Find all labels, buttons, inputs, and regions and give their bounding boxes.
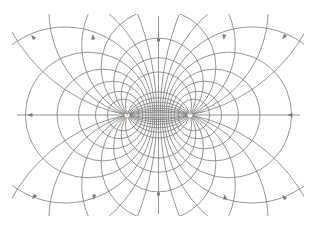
positive-charge-label: + — [124, 111, 130, 118]
arrow-icon — [31, 194, 38, 201]
field-line-circle — [0, 112, 316, 227]
arrow-icon — [281, 34, 288, 41]
arrow-icon — [281, 193, 288, 200]
arrow-icon — [91, 34, 95, 40]
dipole-field-diagram: + − — [0, 0, 316, 227]
bisector-dot — [157, 39, 160, 42]
arrow-icon — [223, 194, 227, 200]
negative-charge-label: − — [187, 111, 193, 118]
arrow-icon — [222, 34, 226, 40]
bisector-dot — [157, 193, 160, 196]
arrow-icon — [287, 113, 293, 117]
arrow-icon — [27, 113, 33, 117]
field-lines-figure — [0, 0, 316, 227]
field-line-circle — [0, 0, 316, 118]
